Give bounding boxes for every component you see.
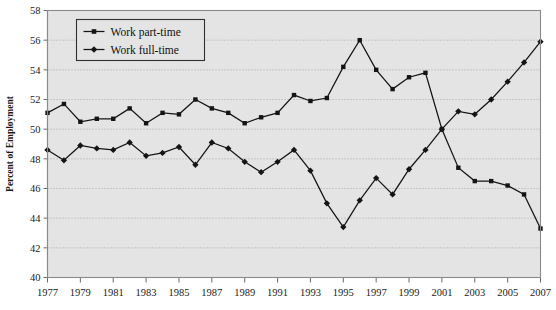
legend-label: Work full-time xyxy=(111,44,179,56)
y-tick-label: 46 xyxy=(30,183,41,194)
chart-legend[interactable]: Work part-timeWork full-time xyxy=(77,20,205,61)
chart-container: 40424446485052545658 1977197919811983198… xyxy=(0,0,556,310)
y-axis-ticks: 40424446485052545658 xyxy=(30,5,48,283)
legend-label: Work part-time xyxy=(111,26,181,39)
x-tick-label: 1995 xyxy=(333,287,354,298)
x-axis-ticks: 1977197919811983198519871989199119931995… xyxy=(37,278,551,298)
x-tick-label: 1991 xyxy=(267,287,288,298)
x-tick-label: 1989 xyxy=(234,287,255,298)
x-tick-label: 2007 xyxy=(530,287,551,298)
x-tick-label: 2005 xyxy=(497,287,518,298)
x-tick-label: 1985 xyxy=(168,287,189,298)
y-axis-title-text: Percent of Employment xyxy=(5,95,15,192)
y-tick-label: 44 xyxy=(30,213,41,224)
y-tick-label: 48 xyxy=(30,154,41,165)
y-tick-label: 42 xyxy=(30,243,41,254)
y-tick-label: 56 xyxy=(30,35,41,46)
x-tick-label: 1977 xyxy=(37,287,58,298)
x-tick-label: 1999 xyxy=(399,287,420,298)
y-tick-label: 40 xyxy=(30,272,41,283)
x-tick-label: 1987 xyxy=(201,287,222,298)
x-tick-label: 2003 xyxy=(464,287,485,298)
square-marker-icon xyxy=(92,29,97,34)
y-tick-label: 54 xyxy=(30,65,41,76)
y-tick-label: 52 xyxy=(30,94,41,105)
y-axis-title: Percent of Employment xyxy=(5,95,15,192)
y-tick-label: 58 xyxy=(30,5,41,16)
x-tick-label: 1983 xyxy=(136,287,157,298)
x-tick-label: 1993 xyxy=(300,287,321,298)
x-tick-label: 2001 xyxy=(431,287,452,298)
x-tick-label: 1997 xyxy=(366,287,387,298)
employment-line-chart: 40424446485052545658 1977197919811983198… xyxy=(0,0,556,310)
x-tick-label: 1981 xyxy=(103,287,124,298)
y-tick-label: 50 xyxy=(30,124,41,135)
x-tick-label: 1979 xyxy=(70,287,91,298)
